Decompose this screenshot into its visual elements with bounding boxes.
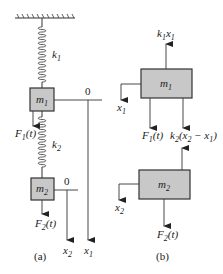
panel-a: k1 m1 0 x1 F1(t) k2 m2 0 x2 F2(t) (a): [14, 14, 102, 263]
spring-k1: [38, 18, 46, 88]
spring-k2: [38, 111, 46, 178]
panel-a-caption: (a): [34, 250, 47, 263]
panel-b-caption: (b): [156, 250, 169, 263]
fbd-x1-label: x1: [116, 101, 126, 116]
fbd-x2-label: x2: [114, 201, 124, 216]
origin-label-1: 0: [85, 85, 91, 97]
origin-label-2: 0: [64, 175, 70, 187]
force-f1-label: F1(t): [14, 127, 36, 142]
spring-force-k1x1-label: k1x1: [157, 27, 175, 42]
spring-k2-label: k2: [52, 138, 61, 153]
fbd-force-f2-label: F2(t): [156, 228, 178, 243]
spring-k1-label: k1: [52, 48, 61, 63]
coupling-force-label: k2(x2 − x1): [170, 129, 217, 144]
x2-axis-label: x2: [62, 244, 72, 259]
fbd-force-f1-label: F1(t): [141, 129, 163, 144]
two-mass-spring-diagram: k1 m1 0 x1 F1(t) k2 m2 0 x2 F2(t) (a): [0, 0, 223, 274]
force-f2-label: F2(t): [34, 217, 56, 232]
x1-axis-label: x1: [83, 244, 93, 259]
ceiling-support: [15, 14, 75, 18]
panel-b: k1x1 m1 x1 F1(t) k2(x2 − x1) m2 x2 F2(t)…: [114, 27, 217, 263]
